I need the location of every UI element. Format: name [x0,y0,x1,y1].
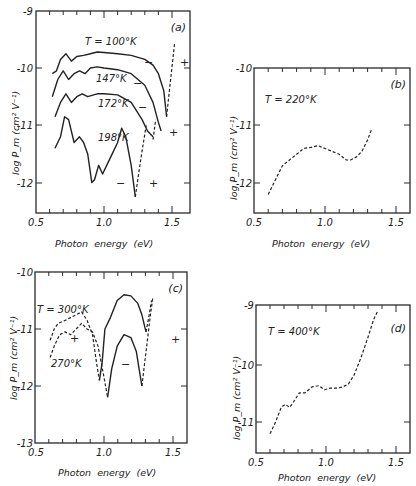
data-series-line [268,128,372,194]
curve-label: T = 220°K [265,94,318,105]
panel-tag: (a) [171,21,186,34]
sign-plus: + [70,332,79,345]
panel-tag: (c) [168,282,183,295]
y-axis-label: log P_m (cm² V⁻¹) [8,316,19,400]
panel-b-ticks [254,68,410,213]
curve-label: T = 100°K [85,36,138,47]
data-series-line [142,298,153,386]
figure-canvas: -9 -10 -11 -12 0.5 1.0 1.5 Photon energy… [0,0,416,486]
x-tick-label: 0.5 [248,457,264,468]
sign-minus: − [138,101,147,114]
y-tick-label: -10 [17,267,33,278]
panel-b-curves [268,128,372,194]
x-tick-label: 1.5 [388,217,404,228]
y-tick-label: -10 [236,63,252,74]
sign-plus: + [180,56,189,69]
curve-label: 270°K [51,358,83,369]
x-tick-label: 1.0 [317,217,333,228]
y-tick-label: -9 [244,300,254,311]
data-series-line [135,125,146,197]
panel-a: -9 -10 -11 -12 0.5 1.0 1.5 Photon energy… [10,6,190,249]
x-tick-label: 0.5 [28,447,44,458]
y-tick-label: -12 [17,381,33,392]
y-tick-label: -11 [17,324,33,335]
data-series-line [50,312,99,380]
data-series-line [153,120,156,140]
panel-b: -10 -11 -12 0.5 1.0 1.5 Photon energy (e… [228,63,410,249]
x-axis-label: Photon energy (eV) [278,472,376,483]
panel-d: -9 -10 -11 0.5 1.0 1.5 Photon energy (eV… [231,300,410,483]
x-tick-label: 1.5 [164,217,180,228]
x-tick-label: 1.5 [165,447,181,458]
x-axis-label: Photon energy (eV) [272,238,370,249]
panel-a-curves [52,42,174,197]
x-axis-label: Photon energy (eV) [58,467,156,478]
y-tick-label: -12 [17,178,33,189]
x-tick-label: 1.0 [96,447,112,458]
sign-plus: + [149,177,158,190]
panel-tag: (d) [390,322,406,335]
y-axis-label: log P_m (cm² V⁻¹) [228,116,239,200]
sign-minus: − [116,177,125,190]
sign-plus: + [171,333,180,346]
panel-b-frame [254,68,410,213]
x-axis-label: Photon energy (eV) [55,238,153,249]
x-tick-label: 1.5 [388,457,404,468]
panel-c: -10 -11 -12 -13 0.5 1.0 1.5 Photon energ… [8,267,187,478]
x-tick-label: 1.0 [318,457,334,468]
curve-label: 147°K [96,73,128,84]
sign-minus: − [121,358,130,371]
data-series-line [167,42,175,117]
y-tick-label: -9 [23,6,33,17]
x-tick-label: 1.0 [96,217,112,228]
curve-label: T = 400°K [268,326,321,337]
panel-tag: (b) [390,78,406,91]
x-tick-label: 0.5 [246,217,262,228]
x-tick-label: 0.5 [28,217,44,228]
y-axis-label: log P_m (cm² V⁻¹) [10,91,21,175]
y-tick-label: -10 [17,63,33,74]
sign-plus: + [169,126,178,139]
y-axis-label: log P_m (cm² V⁻¹) [231,356,242,440]
